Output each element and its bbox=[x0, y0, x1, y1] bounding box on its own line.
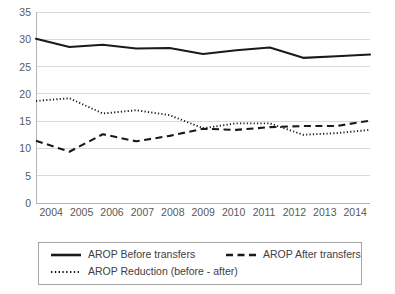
series-line-arop-before bbox=[36, 39, 370, 58]
legend-label: AROP Reduction (before - after) bbox=[88, 265, 238, 277]
x-tick-label: 2014 bbox=[344, 206, 368, 218]
x-tick-label: 2010 bbox=[222, 206, 246, 218]
x-tick-label: 2007 bbox=[131, 206, 155, 218]
gridlines bbox=[36, 12, 370, 176]
x-tick-label: 2013 bbox=[313, 206, 337, 218]
x-tick-label: 2006 bbox=[100, 206, 124, 218]
legend: AROP Before transfers AROP After transfe… bbox=[39, 243, 362, 285]
x-tick-label: 2012 bbox=[283, 206, 307, 218]
y-tick-label: 20 bbox=[19, 88, 31, 100]
y-tick-label: 10 bbox=[19, 142, 31, 154]
y-tick-label: 25 bbox=[19, 61, 31, 73]
x-tick-label: 2011 bbox=[253, 206, 276, 218]
y-tick-label: 5 bbox=[25, 170, 31, 182]
y-tick-label: 0 bbox=[25, 197, 31, 209]
data-series-group bbox=[36, 39, 370, 152]
legend-label: AROP After transfers bbox=[263, 248, 361, 260]
x-tick-label: 2009 bbox=[192, 206, 216, 218]
y-tick-label: 35 bbox=[19, 6, 31, 18]
chart-container: 35 30 25 20 15 10 5 0 2004 2005 2006 200… bbox=[0, 0, 395, 294]
x-tick-label: 2005 bbox=[70, 206, 94, 218]
y-tick-label: 30 bbox=[19, 33, 31, 45]
line-chart: 35 30 25 20 15 10 5 0 2004 2005 2006 200… bbox=[0, 0, 395, 294]
y-tick-label: 15 bbox=[19, 115, 31, 127]
series-line-arop-after bbox=[36, 121, 370, 152]
legend-label: AROP Before transfers bbox=[88, 248, 195, 260]
y-axis-tick-labels: 35 30 25 20 15 10 5 0 bbox=[19, 6, 31, 209]
x-tick-label: 2008 bbox=[161, 206, 185, 218]
axes bbox=[36, 12, 370, 203]
x-tick-label: 2004 bbox=[40, 206, 64, 218]
x-axis-tick-labels: 2004 2005 2006 2007 2008 2009 2010 2011 … bbox=[40, 206, 368, 218]
